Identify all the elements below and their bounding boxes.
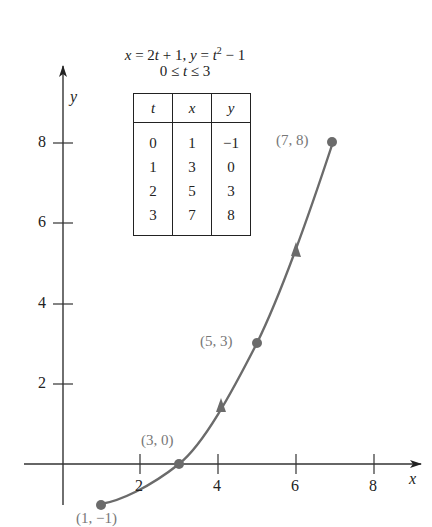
table-cell: 3 <box>212 179 251 203</box>
point-label: (3, 0) <box>141 432 174 449</box>
point-2 <box>174 459 184 469</box>
point-4 <box>327 137 337 147</box>
y-axis-label: y <box>70 88 77 106</box>
x-tick-label: 6 <box>291 477 299 495</box>
table-header: t <box>134 94 173 123</box>
point-label: (1, −1) <box>76 510 117 527</box>
table-header: x <box>173 94 212 123</box>
y-tick-label: 6 <box>38 213 46 231</box>
plot-area <box>0 0 432 527</box>
point-1 <box>96 500 106 510</box>
y-tick-label: 4 <box>38 294 46 312</box>
table-row: 3 7 8 <box>134 203 251 236</box>
table-cell: −1 <box>212 123 251 156</box>
table-cell: 1 <box>173 123 212 156</box>
table-row: 1 3 0 <box>134 155 251 179</box>
table-cell: 0 <box>212 155 251 179</box>
x-axis-label: x <box>409 470 416 488</box>
table-cell: 0 <box>134 123 173 156</box>
y-tick-label: 8 <box>38 133 46 151</box>
table-cell: 5 <box>173 179 212 203</box>
point-label: (7, 8) <box>276 132 309 149</box>
table-cell: 2 <box>134 179 173 203</box>
point-3 <box>252 338 262 348</box>
table-header: y <box>212 94 251 123</box>
table-cell: 1 <box>134 155 173 179</box>
table-cell: 8 <box>212 203 251 236</box>
x-tick-label: 4 <box>213 477 221 495</box>
table-cell: 3 <box>173 155 212 179</box>
value-table: t x y 0 1 −1 1 3 0 2 5 3 3 7 8 <box>133 93 251 236</box>
direction-arrow-icon <box>291 242 301 257</box>
table-row: 0 1 −1 <box>134 123 251 156</box>
table-header-row: t x y <box>134 94 251 123</box>
y-tick-label: 2 <box>38 374 46 392</box>
table-cell: 7 <box>173 203 212 236</box>
table-cell: 3 <box>134 203 173 236</box>
point-label: (5, 3) <box>200 333 233 350</box>
x-tick-label: 2 <box>135 477 143 495</box>
table-row: 2 5 3 <box>134 179 251 203</box>
x-tick-label: 8 <box>369 477 377 495</box>
